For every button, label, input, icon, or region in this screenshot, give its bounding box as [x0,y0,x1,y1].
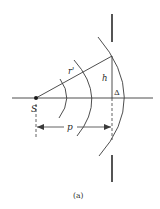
wavefront-diagram: S r' h Δ p (a) [0,0,160,209]
distance-label: p [67,122,73,132]
wavefront-arc-outer [98,37,124,156]
source-point [34,96,38,100]
figure-caption: (a) [73,191,83,200]
height-label: h [102,73,107,83]
source-label: S [31,104,37,114]
radius-label: r' [68,66,74,76]
diagram-canvas: S r' h Δ p (a) [0,0,160,209]
sagitta-label: Δ [114,88,120,97]
radius-line [36,56,112,98]
